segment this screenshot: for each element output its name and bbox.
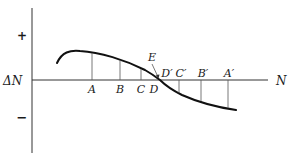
label-c: C: [137, 83, 146, 96]
label-c-prime: C′: [176, 67, 187, 80]
label-e: E: [147, 51, 156, 64]
label-d-prime: D′: [160, 67, 173, 80]
label-b: B: [115, 83, 124, 96]
y-axis-label: ΔN: [2, 74, 23, 88]
label-b-prime: B′: [197, 67, 209, 80]
minus-sign: −: [17, 110, 28, 125]
diagram-canvas: + − ΔN N A B C D D′ C′ B′ A′ E: [0, 0, 293, 158]
label-d: D: [149, 83, 159, 96]
label-a-prime: A′: [223, 67, 235, 80]
x-axis-label: N: [275, 74, 287, 88]
plus-sign: +: [17, 29, 27, 43]
label-a: A: [87, 83, 96, 96]
